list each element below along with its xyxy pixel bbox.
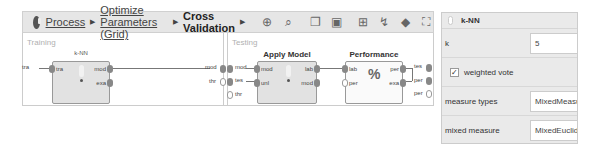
zoom-out-icon[interactable]: ⌕ — [281, 15, 295, 29]
auto-wire-icon[interactable]: ↯ — [377, 15, 391, 29]
fit-icon[interactable]: ⛶ — [419, 15, 433, 29]
testing-output-port-per[interactable]: per — [414, 77, 423, 83]
port-knob[interactable] — [400, 65, 406, 73]
param-row-mixed-measure: mixed measure MixedEuclideanDistance — [442, 116, 577, 144]
testing-input-port-mod[interactable]: mod — [235, 64, 247, 70]
param-row-measure-types: measure types MixedMeasures — [442, 87, 577, 116]
operator-title: Apply Model — [258, 50, 316, 59]
param-label-k: k — [445, 39, 530, 48]
weighted-vote-checkbox[interactable]: ✓ — [450, 68, 459, 77]
port-label-unl: unl — [261, 80, 269, 86]
port-label-lab: lab — [349, 66, 357, 72]
port-label-per: per — [349, 80, 358, 86]
knn-bulb-icon — [79, 65, 84, 77]
breadcrumb-cross-validation: Cross Validation — [183, 10, 235, 34]
param-label-measure-types: measure types — [445, 97, 530, 106]
port-knob[interactable] — [314, 65, 320, 73]
zoom-in-icon[interactable]: ⊕ — [260, 15, 274, 29]
wire — [113, 68, 210, 69]
toolbar-icons: ⊕ ⌕ ❐ ▣ ⊞ ↯ ◆ ⛶ — [260, 15, 433, 29]
breadcrumb-separator-icon[interactable]: ▶ — [240, 18, 245, 26]
operator-apply-model[interactable]: Apply Model mod unl lab mod — [257, 61, 317, 104]
training-output-port-mod[interactable]: mod — [205, 64, 217, 70]
add-port-icon[interactable]: ⊞ — [356, 15, 370, 29]
port-knob[interactable] — [426, 77, 432, 85]
param-row-k: k 5 — [442, 29, 577, 58]
wire — [406, 81, 412, 82]
apply-bulb-icon — [286, 65, 291, 77]
testing-output-port-tes[interactable]: tes — [414, 63, 422, 69]
paste-icon[interactable]: ▣ — [329, 15, 343, 29]
operator-title: k-NN — [53, 50, 109, 56]
port-knob[interactable] — [342, 65, 348, 73]
parameters-panel: k-NN k 5 ✓ weighted vote measure types M… — [441, 12, 578, 144]
process-icon — [33, 16, 40, 29]
testing-panel[interactable]: Testing mod tes thr Apply Model mod unl … — [227, 33, 433, 105]
port-label-exa: exa — [389, 80, 399, 86]
port-knob[interactable] — [49, 65, 55, 73]
copy-icon[interactable]: ❐ — [308, 15, 322, 29]
knn-bulb-icon — [448, 16, 453, 25]
port-knob[interactable] — [342, 79, 348, 87]
eraser-icon[interactable]: ◆ — [398, 15, 412, 29]
breadcrumb-separator-icon: ▶ — [90, 18, 95, 26]
k-input[interactable]: 5 — [530, 33, 577, 54]
operator-performance[interactable]: Performance lab per % per exa — [345, 61, 403, 104]
apply-bulb-dot — [287, 79, 290, 82]
testing-input-port-tes[interactable]: tes — [235, 77, 243, 83]
port-knob[interactable] — [220, 65, 226, 73]
port-label-per: per — [390, 66, 399, 72]
testing-output-port-per2[interactable]: per — [414, 90, 423, 96]
port-label-mod: mod — [261, 66, 273, 72]
percent-icon: % — [368, 66, 380, 82]
port-knob[interactable] — [254, 65, 260, 73]
testing-input-port-thr[interactable]: thr — [235, 91, 242, 97]
breadcrumb-separator-icon: ▶ — [173, 18, 178, 26]
testing-label: Testing — [232, 38, 257, 47]
port-knob[interactable] — [220, 78, 226, 86]
operator-title: Performance — [346, 50, 402, 59]
process-toolbar: Process ▶ Optimize Parameters (Grid) ▶ C… — [22, 11, 434, 33]
wire — [412, 68, 413, 81]
operator-knn[interactable]: k-NN tra mod exa — [52, 61, 110, 104]
port-knob[interactable] — [227, 91, 233, 99]
mixed-measure-select[interactable]: MixedEuclideanDistance — [530, 120, 577, 141]
port-knob[interactable] — [227, 78, 233, 86]
port-knob[interactable] — [426, 64, 432, 72]
breadcrumb-process[interactable]: Process — [46, 16, 86, 28]
param-label-mixed-measure: mixed measure — [445, 126, 530, 135]
port-knob[interactable] — [426, 90, 432, 98]
port-knob[interactable] — [107, 79, 113, 87]
parameters-header: k-NN — [442, 13, 577, 29]
training-panel[interactable]: Training tra k-NN tra mod exa mod thr — [23, 33, 224, 105]
port-knob[interactable] — [227, 65, 233, 73]
measure-types-select[interactable]: MixedMeasures — [530, 91, 577, 112]
knn-bulb-dot — [80, 79, 83, 82]
port-label-mod: mod — [301, 80, 313, 86]
port-label-exa: exa — [96, 80, 106, 86]
param-label-weighted-vote: weighted vote — [464, 68, 513, 77]
process-canvas[interactable]: Training tra k-NN tra mod exa mod thr Te… — [22, 33, 434, 106]
port-knob[interactable] — [314, 79, 320, 87]
port-label-mod: mod — [94, 66, 106, 72]
parameters-title: k-NN — [461, 16, 480, 25]
training-label: Training — [27, 38, 56, 47]
port-knob[interactable] — [107, 65, 113, 73]
training-input-port-tra[interactable]: tra — [22, 64, 29, 70]
param-row-weighted-vote: ✓ weighted vote — [442, 58, 577, 87]
training-output-port-thr[interactable]: thr — [209, 78, 216, 84]
port-knob[interactable] — [254, 79, 260, 87]
port-label-lab: lab — [305, 66, 313, 72]
port-label-tra: tra — [56, 66, 63, 72]
